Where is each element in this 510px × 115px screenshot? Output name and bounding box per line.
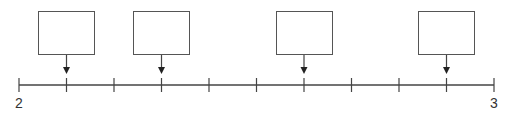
arrow-head-icon — [301, 67, 308, 74]
arrow-head-icon — [63, 67, 70, 74]
answer-box-2[interactable] — [133, 11, 190, 55]
start-label: 2 — [15, 96, 23, 110]
arrow-head-icon — [443, 67, 450, 74]
number-line-diagram: 2 3 — [0, 0, 510, 115]
answer-box-1[interactable] — [38, 11, 95, 55]
arrow-head-icon — [158, 67, 165, 74]
answer-box-4[interactable] — [418, 11, 475, 55]
end-label: 3 — [490, 96, 498, 110]
answer-box-3[interactable] — [276, 11, 333, 55]
